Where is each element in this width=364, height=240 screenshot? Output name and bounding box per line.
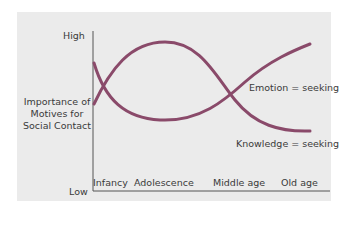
- y-axis-label-line2: Motives for: [19, 108, 95, 120]
- x-tick-adolescence: Adolescence: [134, 177, 194, 188]
- y-axis-label-line3: Social Contact: [19, 120, 95, 132]
- x-tick-infancy: Infancy: [93, 177, 128, 188]
- y-tick-high: High: [63, 30, 85, 41]
- emotion-seeking-label: Emotion = seeking: [249, 82, 339, 93]
- y-tick-low: Low: [69, 186, 88, 197]
- y-axis-label-line1: Importance of: [19, 96, 95, 108]
- x-tick-old-age: Old age: [281, 177, 318, 188]
- knowledge-seeking-label: Knowledge = seeking: [236, 138, 339, 149]
- x-tick-middle-age: Middle age: [213, 177, 265, 188]
- y-axis-label: Importance of Motives for Social Contact: [19, 96, 95, 132]
